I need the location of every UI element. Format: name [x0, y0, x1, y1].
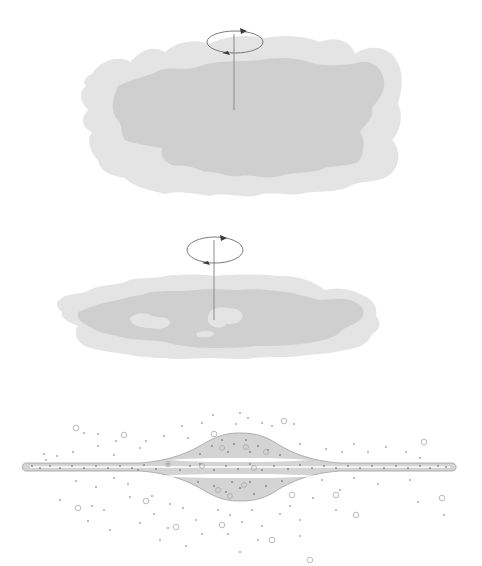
galaxy-formation-diagram: Three-stage illustration of a rotating p…	[0, 0, 482, 566]
stage-3-galaxy	[22, 433, 456, 501]
arrow-head-top-icon	[240, 28, 247, 34]
stage-1-cloud	[81, 36, 402, 197]
stage-2-cloud	[57, 275, 380, 359]
arrow-head-top-icon	[220, 235, 227, 241]
rotation-ellipse	[187, 237, 243, 263]
